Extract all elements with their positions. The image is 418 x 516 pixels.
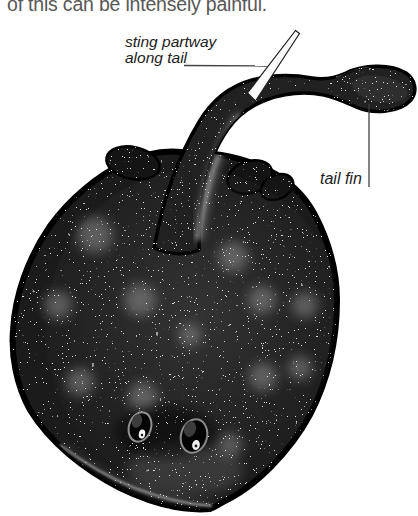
stingray-illustration — [0, 0, 418, 516]
stingray-figure: sting partway along tail tail fin — [0, 0, 418, 516]
page: of this can be intensely painful. — [0, 0, 418, 516]
label-tail-fin: tail fin — [320, 171, 362, 187]
sting-leader-line — [184, 66, 267, 67]
label-sting-line2: along tail — [125, 49, 187, 66]
label-sting-line1: sting partway — [125, 33, 216, 50]
label-sting: sting partway along tail — [125, 34, 216, 65]
